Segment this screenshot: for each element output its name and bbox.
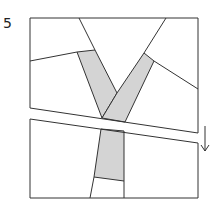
fault-diagram xyxy=(0,0,222,210)
upper-right-diagonal xyxy=(144,18,166,53)
upper-left-diagonal xyxy=(79,18,95,50)
lower-left-line xyxy=(90,177,94,198)
upper-right-slope xyxy=(154,61,198,89)
down-arrow-icon xyxy=(201,126,209,151)
y-stem xyxy=(94,129,124,181)
upper-left-horizontal xyxy=(30,52,77,61)
